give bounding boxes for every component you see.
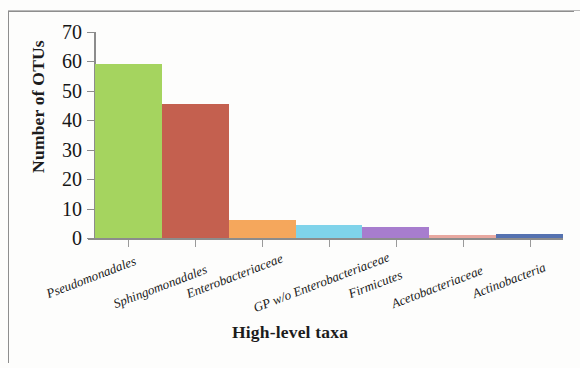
x-axis-tick-mark [530, 240, 531, 247]
y-axis-tick-label: 30 [36, 140, 82, 160]
x-axis-tick-mark [128, 240, 129, 247]
bar-fill [95, 64, 162, 238]
y-axis-tick-label: 10 [36, 199, 82, 219]
bar-fill [362, 227, 429, 238]
bar-fill [296, 225, 363, 238]
x-axis-tick-mark [463, 240, 464, 247]
plot-area [95, 32, 563, 238]
bar-chart-figure: Number of OTUs 010203040506070 Pseudomon… [0, 0, 580, 368]
bar-fill [496, 234, 563, 238]
y-axis-tick-label: 70 [36, 22, 82, 42]
bar-fill [229, 220, 296, 238]
figure-border-top-edge [8, 10, 580, 11]
y-axis-tick-label: 50 [36, 81, 82, 101]
bar-fill [162, 104, 229, 238]
y-axis-tick-label: 40 [36, 110, 82, 130]
y-axis-tick-label: 0 [36, 228, 82, 248]
bar-series [95, 32, 563, 238]
x-axis-tick-mark [262, 240, 263, 247]
x-axis-tick-mark [396, 240, 397, 247]
x-axis-tick-mark [329, 240, 330, 247]
x-axis-title: High-level taxa [0, 322, 580, 343]
y-axis-tick-label: 20 [36, 169, 82, 189]
y-axis-tick-label: 60 [36, 51, 82, 71]
x-axis-line [88, 238, 563, 240]
x-axis-tick-mark [195, 240, 196, 247]
bar-fill [429, 235, 496, 238]
